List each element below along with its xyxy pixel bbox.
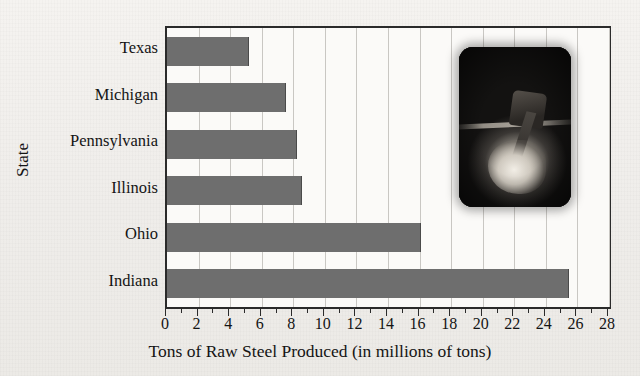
- x-tick-label-0: 0: [161, 315, 169, 333]
- gridline: [388, 28, 389, 307]
- gridline: [451, 28, 452, 307]
- x-tick-label-24: 24: [536, 315, 552, 333]
- y-tick-label-texas: Texas: [0, 40, 158, 57]
- x-minor-tickmark: [276, 309, 277, 313]
- x-tick-label-28: 28: [599, 315, 615, 333]
- y-tick-label-indiana: Indiana: [0, 273, 158, 290]
- bar-chart: State TexasMichiganPennsylvaniaIllinoisO…: [0, 0, 640, 376]
- x-minor-tickmark: [433, 309, 434, 313]
- x-tick-label-8: 8: [287, 315, 295, 333]
- x-minor-tickmark: [465, 309, 466, 313]
- x-minor-tickmark: [181, 309, 182, 313]
- x-minor-tickmark: [212, 309, 213, 313]
- x-minor-tickmark: [339, 309, 340, 313]
- x-axis-title: Tons of Raw Steel Produced (in millions …: [0, 341, 640, 362]
- gridline: [420, 28, 421, 307]
- y-tick-label-michigan: Michigan: [0, 87, 158, 104]
- gridline: [262, 28, 263, 307]
- x-tick-label-12: 12: [346, 315, 362, 333]
- x-minor-tickmark: [402, 309, 403, 313]
- gridline: [577, 28, 578, 307]
- x-tick-label-18: 18: [441, 315, 457, 333]
- gridline: [199, 28, 200, 307]
- bar-texas: [167, 37, 249, 66]
- bar-michigan: [167, 83, 286, 112]
- x-tick-label-4: 4: [224, 315, 232, 333]
- x-tick-label-16: 16: [410, 315, 426, 333]
- x-axis-tick-labels: 0246810121416182022242628: [165, 309, 611, 331]
- x-minor-tickmark: [560, 309, 561, 313]
- x-minor-tickmark: [244, 309, 245, 313]
- x-minor-tickmark: [497, 309, 498, 313]
- bar-indiana: [167, 269, 569, 298]
- x-tick-label-2: 2: [193, 315, 201, 333]
- x-minor-tickmark: [528, 309, 529, 313]
- x-tick-label-14: 14: [378, 315, 394, 333]
- x-tick-label-22: 22: [504, 315, 520, 333]
- gridline: [609, 28, 610, 307]
- x-tick-label-6: 6: [256, 315, 264, 333]
- bar-ohio: [167, 223, 421, 252]
- gridline: [293, 28, 294, 307]
- y-tick-label-pennsylvania: Pennsylvania: [0, 133, 158, 150]
- steel-mill-photo-inset: [459, 47, 571, 207]
- y-axis-tick-labels: TexasMichiganPennsylvaniaIllinoisOhioInd…: [0, 26, 158, 309]
- bar-pennsylvania: [167, 130, 297, 159]
- gridline: [356, 28, 357, 307]
- x-tick-label-20: 20: [473, 315, 489, 333]
- x-minor-tickmark: [370, 309, 371, 313]
- x-tick-label-26: 26: [567, 315, 583, 333]
- bar-row: [167, 223, 609, 252]
- x-minor-tickmark: [591, 309, 592, 313]
- x-minor-tickmark: [307, 309, 308, 313]
- gridline: [230, 28, 231, 307]
- y-tick-label-illinois: Illinois: [0, 180, 158, 197]
- bar-illinois: [167, 176, 302, 205]
- gridline: [325, 28, 326, 307]
- photo-vignette: [459, 47, 571, 207]
- y-tick-label-ohio: Ohio: [0, 226, 158, 243]
- bar-row: [167, 269, 609, 298]
- x-tick-label-10: 10: [315, 315, 331, 333]
